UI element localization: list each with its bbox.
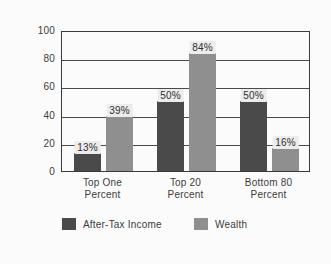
bar-value-label: 16% xyxy=(272,136,299,149)
bar-value-label: 50% xyxy=(157,89,184,102)
bar xyxy=(106,116,133,171)
y-axis-tick-label: 100 xyxy=(25,25,55,36)
y-axis-tick-label: 40 xyxy=(25,110,55,121)
bar xyxy=(240,101,267,172)
legend-swatch-icon xyxy=(194,218,208,230)
x-axis-category-line: Percent xyxy=(83,189,122,201)
gridline xyxy=(62,88,309,89)
x-axis-category-line: Top One xyxy=(83,177,122,189)
y-axis-tick-label: 60 xyxy=(25,81,55,92)
chart-figure: Percent 100806040200 13%39%50%84%50%16% … xyxy=(0,0,331,264)
legend-swatch-icon xyxy=(62,218,76,230)
x-axis-category-line: Bottom 80 xyxy=(245,177,292,189)
gridline xyxy=(62,60,309,61)
chart-legend: After-Tax IncomeWealth xyxy=(0,218,331,236)
legend-entry[interactable]: Wealth xyxy=(194,218,247,230)
y-axis-tick-label: 0 xyxy=(25,166,55,177)
legend-label: Wealth xyxy=(215,219,247,230)
bar-value-label: 39% xyxy=(106,104,133,117)
x-axis-category-line: Top 20 xyxy=(168,177,204,189)
bar xyxy=(189,53,216,171)
bar-value-label: 50% xyxy=(240,89,267,102)
legend-entry[interactable]: After-Tax Income xyxy=(62,218,162,230)
bar-value-label: 84% xyxy=(189,41,216,54)
y-axis-tick-label: 20 xyxy=(25,138,55,149)
x-axis-category-label: Top 20Percent xyxy=(168,177,204,201)
bar xyxy=(74,153,101,171)
x-axis-category-line: Percent xyxy=(245,189,292,201)
x-axis-category-line: Percent xyxy=(168,189,204,201)
bar-value-label: 13% xyxy=(74,141,101,154)
legend-label: After-Tax Income xyxy=(83,219,162,230)
x-axis-category-label: Top OnePercent xyxy=(83,177,122,201)
bar xyxy=(272,148,299,171)
gridline xyxy=(62,117,309,118)
y-axis-tick-label: 80 xyxy=(25,53,55,64)
x-axis-category-label: Bottom 80Percent xyxy=(245,177,292,201)
bar xyxy=(157,101,184,172)
plot-area: 13%39%50%84%50%16% xyxy=(61,31,310,172)
